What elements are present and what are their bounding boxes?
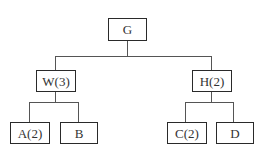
node-b: B xyxy=(60,122,98,144)
node-w: W(3) xyxy=(36,70,76,92)
node-a: A(2) xyxy=(10,122,50,144)
node-d: D xyxy=(216,122,254,144)
connector-w-bar xyxy=(29,102,79,103)
connector-to-d xyxy=(233,102,234,122)
connector-to-c xyxy=(185,102,186,122)
connector-h-bar xyxy=(185,102,234,103)
connector-w-down xyxy=(55,91,56,102)
connector-to-a xyxy=(29,102,30,122)
connector-h-down xyxy=(211,91,212,102)
connector-to-w xyxy=(55,56,56,70)
connector-g-down xyxy=(127,40,128,56)
connector-level1-bar xyxy=(55,56,212,57)
node-c: C(2) xyxy=(167,122,207,144)
tree-diagram: G W(3) H(2) A(2) B C(2) D xyxy=(0,0,262,158)
connector-to-h xyxy=(211,56,212,70)
connector-to-b xyxy=(78,102,79,122)
node-h: H(2) xyxy=(192,70,232,92)
node-g: G xyxy=(108,18,147,41)
